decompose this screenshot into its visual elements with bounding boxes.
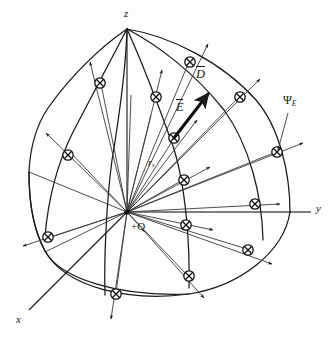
y-axis-label: y	[316, 203, 321, 214]
e-vector-label-text: E	[176, 101, 184, 114]
meridian-4	[127, 29, 189, 288]
circled-x-flux-marker	[63, 150, 73, 160]
circled-x-flux-marker	[43, 232, 53, 242]
radius-subscript: s	[152, 161, 155, 168]
meridian-3	[105, 29, 127, 295]
outer-arc	[29, 172, 290, 296]
circled-x-flux-marker	[95, 78, 105, 88]
ray-19	[70, 152, 127, 212]
flux-symbol-subscript: E	[292, 99, 297, 108]
origin-charge-dot	[124, 209, 129, 214]
radius-label: rs	[148, 158, 155, 169]
psi-leader-group	[278, 113, 288, 150]
circled-x-flux-marker	[184, 271, 194, 281]
flux-diagram-figure: z y x +Q D E ΨE rs	[0, 0, 336, 338]
ray-28	[45, 212, 127, 252]
meridian-2	[45, 29, 127, 237]
flux-symbol-label: ΨE	[283, 94, 296, 107]
d-vector-label: D	[196, 68, 205, 81]
circled-x-flux-marker	[243, 245, 253, 255]
ray-27	[101, 84, 127, 212]
circled-x-flux-marker	[179, 175, 189, 185]
circled-x-flux-marker	[272, 147, 282, 157]
e-vector-label: E	[176, 101, 184, 114]
diagram-canvas	[0, 0, 336, 338]
circled-x-flux-marker	[111, 289, 121, 299]
ray-29	[29, 172, 127, 212]
circled-x-flux-marker	[250, 199, 260, 209]
boundary-arc-upper	[127, 29, 290, 212]
psi-leader-line	[278, 113, 288, 150]
circled-x-flux-marker	[235, 92, 245, 102]
z-axis-label: z	[124, 8, 128, 19]
d-vector-label-text: D	[196, 68, 205, 81]
flux-symbol-glyph: Ψ	[283, 93, 292, 107]
circled-x-flux-marker	[185, 57, 195, 67]
circled-x-flux-marker	[181, 220, 191, 230]
ray-24	[116, 212, 127, 293]
ray-22	[48, 212, 127, 238]
charge-label: +Q	[131, 221, 145, 232]
ray-16	[127, 140, 173, 212]
ray-21	[127, 98, 238, 212]
ray-11	[127, 212, 272, 264]
x-axis-label: x	[16, 314, 21, 325]
circled-x-flux-marker	[151, 92, 161, 102]
